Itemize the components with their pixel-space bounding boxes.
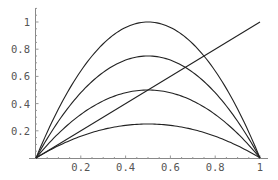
- chart: 0.20.40.60.81 0.20.40.60.81: [0, 0, 278, 180]
- x-tick-label: 0.2: [71, 161, 90, 173]
- series-line: [36, 56, 260, 158]
- x-tick-label: 1: [257, 161, 263, 173]
- x-axis: 0.20.40.60.81: [29, 156, 268, 174]
- series-line: [36, 124, 260, 158]
- series-line: [36, 22, 260, 158]
- y-tick-label: 1: [24, 16, 30, 28]
- y-tick-label: 0.4: [11, 98, 30, 110]
- plot-series: [36, 22, 260, 158]
- x-tick-label: 0.6: [161, 161, 180, 173]
- y-tick-label: 0.2: [11, 125, 30, 137]
- x-tick-label: 0.8: [206, 161, 225, 173]
- y-tick-label: 0.6: [11, 70, 30, 82]
- y-axis: 0.20.40.60.81: [11, 8, 38, 158]
- x-tick-label: 0.4: [116, 161, 135, 173]
- y-tick-label: 0.8: [11, 43, 30, 55]
